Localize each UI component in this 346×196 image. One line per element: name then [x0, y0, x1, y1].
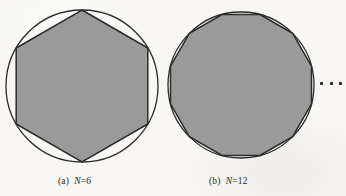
panel-b-caption: (b)N=12	[209, 174, 248, 188]
panel-a-number: 6	[86, 176, 91, 186]
panel-a-diagram	[0, 0, 170, 172]
ellipsis-dot-1	[320, 82, 323, 85]
panel-a-caption-tag: (a)	[58, 176, 69, 186]
caption-row: (a)N=6 (b)N=12	[0, 170, 346, 192]
continuation-ellipsis	[320, 76, 342, 90]
panel-a-hexagon	[16, 10, 148, 162]
panel-b-diagram	[160, 0, 346, 172]
ellipsis-dot-2	[330, 82, 333, 85]
panel-b-number: 12	[238, 176, 248, 186]
figure-root: (a)N=6 (b)N=12	[0, 0, 346, 196]
panel-a-caption-value: N=6	[74, 176, 91, 186]
panel-b-caption-tag: (b)	[209, 176, 221, 186]
panel-b-dodecagon	[170, 14, 311, 155]
ellipsis-dot-3	[339, 82, 342, 85]
panel-b-caption-value: N=12	[226, 176, 248, 186]
panel-a-caption: (a)N=6	[58, 174, 91, 188]
